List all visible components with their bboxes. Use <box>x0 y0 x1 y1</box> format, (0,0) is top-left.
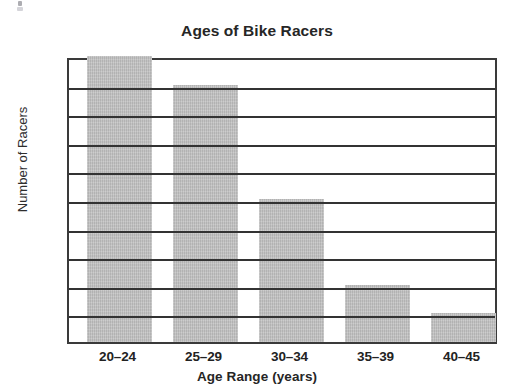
y-axis-label: Number of Racers <box>15 80 30 240</box>
plot-inner <box>69 60 495 342</box>
gridline-20 <box>69 231 495 233</box>
gridline-5 <box>69 316 495 318</box>
gridline-45 <box>69 88 495 90</box>
gridline-40 <box>69 116 495 118</box>
bar-20-24 <box>87 56 152 342</box>
x-tick-label-30-34: 30–34 <box>240 349 340 364</box>
bar-35-39 <box>345 285 410 342</box>
scan-artifact-speck <box>18 1 22 6</box>
gridline-30 <box>69 173 495 175</box>
x-axis-label: Age Range (years) <box>0 369 514 384</box>
scan-artifact-speck-secondary <box>17 7 23 11</box>
bar-30-34 <box>259 199 324 342</box>
chart-title: Ages of Bike Racers <box>0 22 514 40</box>
gridline-25 <box>69 202 495 204</box>
bar-chart-screenshot: Ages of Bike Racers Number of Racers 051… <box>0 0 514 389</box>
gridline-15 <box>69 259 495 261</box>
bar-25-29 <box>173 85 238 342</box>
x-tick-label-40-45: 40–45 <box>412 349 512 364</box>
plot-area <box>67 58 497 344</box>
x-tick-label-35-39: 35–39 <box>326 349 426 364</box>
gridline-35 <box>69 145 495 147</box>
x-tick-label-25-29: 25–29 <box>154 349 254 364</box>
gridline-10 <box>69 288 495 290</box>
x-tick-label-20-24: 20–24 <box>68 349 168 364</box>
